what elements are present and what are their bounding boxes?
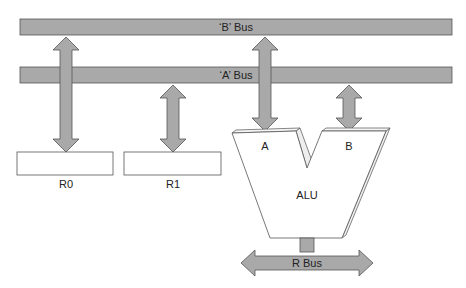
alu-input-b-label: B (345, 140, 352, 152)
alu-a-bidirectional-arrow (252, 37, 278, 131)
alu-b-bidirectional-arrow (336, 85, 362, 131)
alu-input-a-label: A (261, 140, 269, 152)
register-r1-label: R1 (166, 178, 180, 190)
alu-block (232, 128, 390, 238)
register-r0-box (17, 152, 113, 175)
alu-label: ALU (296, 189, 317, 201)
register-r1-box (124, 152, 221, 175)
r-bus-label: R Bus (292, 257, 322, 269)
b-bus-label: ‘B’ Bus (219, 21, 253, 33)
r0-bidirectional-arrow (53, 37, 79, 152)
register-r0-label: R0 (59, 178, 73, 190)
cpu-datapath-diagram: ‘B’ Bus ‘A’ Bus R0 R1 A B ALU R Bus (0, 0, 466, 288)
a-bus-label: ‘A’ Bus (219, 69, 253, 81)
r1-bidirectional-arrow (160, 85, 186, 152)
